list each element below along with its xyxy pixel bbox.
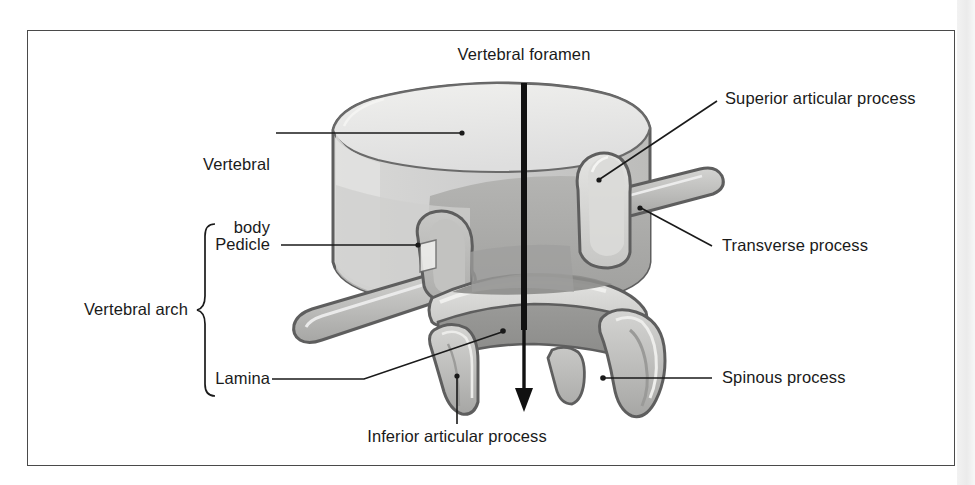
label-inferior-articular-process: Inferior articular process <box>332 426 582 447</box>
inferior-articular-process-right-shape <box>548 347 584 404</box>
superior-articular-process-facet <box>588 157 625 256</box>
label-superior-articular-process: Superior articular process <box>725 88 916 109</box>
inferior-articular-process-group <box>430 324 479 414</box>
label-vertebral-arch: Vertebral arch <box>18 299 188 320</box>
label-spinous-process: Spinous process <box>722 367 846 388</box>
foramen-arrow-head <box>515 388 533 412</box>
superior-articular-process-group <box>577 153 630 268</box>
label-lamina: Lamina <box>120 368 270 389</box>
label-transverse-process: Transverse process <box>722 235 868 256</box>
label-vertebral-body-line1: Vertebral <box>100 154 270 175</box>
spinous-process-group <box>600 310 666 417</box>
pedicle-notch-highlight <box>420 240 436 272</box>
label-vertebral-foramen: Vertebral foramen <box>404 44 644 65</box>
figure-root: Vertebral body Vertebral foramen Superio… <box>0 0 975 485</box>
inferior-articular-process-right-group <box>548 347 584 404</box>
label-pedicle: Pedicle <box>120 234 270 255</box>
